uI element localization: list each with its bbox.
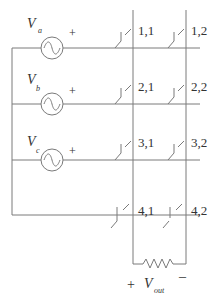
svg-text:out: out bbox=[154, 286, 165, 295]
svg-text:3,2: 3,2 bbox=[191, 135, 207, 150]
output-voltage-label: + V out – bbox=[127, 269, 187, 295]
svg-text:+: + bbox=[127, 277, 135, 292]
svg-text:4,2: 4,2 bbox=[191, 203, 207, 218]
output-resistor bbox=[133, 259, 186, 268]
svg-text:2,2: 2,2 bbox=[191, 79, 207, 94]
svg-text:+: + bbox=[69, 84, 76, 98]
row-wires bbox=[12, 48, 200, 215]
switch-2-2: 2,2 bbox=[168, 79, 207, 104]
switch-1-2: 1,2 bbox=[168, 23, 207, 48]
svg-text:+: + bbox=[69, 144, 76, 158]
circuit-diagram: V a + V b + V c + 1,1 1,2 2,1 2,2 3,1 3,… bbox=[0, 0, 219, 306]
switch-3-2: 3,2 bbox=[168, 135, 207, 160]
ac-source-c: V c + bbox=[27, 134, 76, 171]
svg-text:+: + bbox=[69, 26, 76, 40]
svg-text:1,1: 1,1 bbox=[138, 23, 154, 38]
svg-text:V: V bbox=[27, 16, 37, 31]
svg-text:–: – bbox=[178, 269, 187, 284]
svg-text:b: b bbox=[36, 84, 40, 93]
svg-text:V: V bbox=[144, 276, 154, 291]
switch-3-1: 3,1 bbox=[115, 135, 154, 160]
ac-source-a: V a + bbox=[27, 16, 76, 59]
ac-source-b: V b + bbox=[27, 72, 76, 115]
switch-1-1: 1,1 bbox=[115, 23, 154, 48]
svg-text:c: c bbox=[36, 146, 40, 155]
svg-text:1,2: 1,2 bbox=[191, 23, 207, 38]
svg-text:a: a bbox=[38, 26, 42, 35]
svg-text:3,1: 3,1 bbox=[138, 135, 154, 150]
switch-2-1: 2,1 bbox=[115, 79, 154, 104]
svg-text:4,1: 4,1 bbox=[138, 203, 154, 218]
svg-text:2,1: 2,1 bbox=[138, 79, 154, 94]
